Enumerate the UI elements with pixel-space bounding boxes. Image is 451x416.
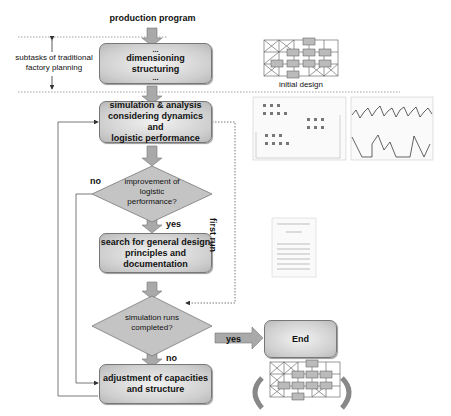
adjusted-layout-grid bbox=[0, 0, 451, 416]
